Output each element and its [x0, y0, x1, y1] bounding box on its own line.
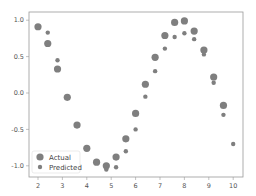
data-point: [163, 46, 167, 50]
data-point: [114, 165, 118, 169]
data-point: [44, 40, 51, 47]
data-point: [211, 81, 215, 85]
data-point: [83, 145, 90, 152]
x-tick-label: 9: [207, 182, 211, 190]
data-point: [104, 167, 108, 171]
y-tick-label: 0.0: [14, 89, 24, 97]
data-point: [73, 121, 80, 128]
y-tick-label: 1.0: [14, 16, 24, 24]
data-point: [143, 94, 147, 98]
data-point: [161, 32, 168, 39]
x-tick-label: 2: [36, 182, 40, 190]
data-point: [182, 31, 186, 35]
legend-actual-marker-icon: [36, 153, 43, 160]
y-tick-label: -1.0: [11, 162, 24, 170]
data-point: [112, 153, 119, 160]
data-point: [54, 65, 61, 72]
data-point: [152, 54, 159, 61]
data-point: [191, 28, 198, 35]
legend-predicted-label: Predicted: [49, 164, 82, 172]
y-axis: 1.00.50.0-0.5-1.0: [11, 16, 29, 170]
data-point: [210, 73, 217, 80]
data-point: [181, 17, 188, 24]
legend-actual-label: Actual: [49, 154, 71, 162]
x-tick-label: 3: [60, 182, 64, 190]
data-point: [122, 135, 129, 142]
data-point: [132, 110, 139, 117]
data-point: [231, 142, 235, 146]
data-point: [192, 37, 196, 41]
data-point: [171, 19, 178, 26]
y-tick-label: -0.5: [11, 126, 24, 134]
data-point: [221, 113, 225, 117]
data-point: [64, 94, 71, 101]
data-point: [93, 159, 100, 166]
data-point: [133, 127, 137, 131]
x-tick-label: 5: [109, 182, 113, 190]
data-point: [34, 23, 41, 30]
data-point: [153, 69, 157, 73]
scatter-chart: 1.00.50.0-0.5-1.0 2345678910 Actual Pred…: [0, 0, 256, 196]
data-point: [202, 52, 206, 56]
x-tick-label: 8: [182, 182, 186, 190]
x-tick-label: 6: [134, 182, 138, 190]
data-point: [124, 149, 128, 153]
x-tick-label: 7: [158, 182, 162, 190]
data-point: [220, 102, 227, 109]
legend: Actual Predicted: [32, 151, 82, 173]
data-point: [55, 58, 59, 62]
y-tick-label: 0.5: [14, 53, 24, 61]
x-axis: 2345678910: [36, 177, 237, 190]
data-point: [46, 30, 50, 34]
legend-predicted-marker-icon: [38, 165, 42, 169]
x-tick-label: 10: [229, 182, 237, 190]
data-point: [172, 35, 176, 39]
x-tick-label: 4: [85, 182, 89, 190]
data-point: [142, 81, 149, 88]
